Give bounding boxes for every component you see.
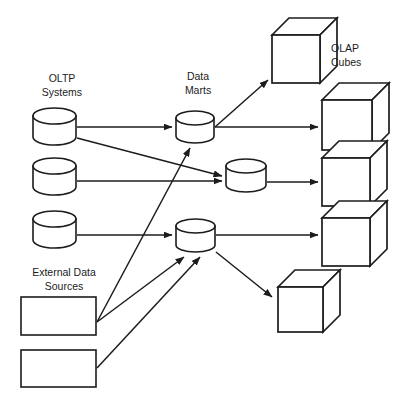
external-sources-group [21,297,96,387]
label-olap-cubes-line2: Cubes [331,56,361,68]
olap-cube-2 [322,83,389,150]
label-external-data-sources: External Data Sources [32,266,96,292]
label-external-data-sources-line1: External Data [32,266,96,278]
arrow-external1-to-mart3 [97,257,184,322]
label-external-data-sources-line2: Sources [45,280,84,292]
data-mart-cylinder-2 [226,159,266,192]
olap-cube-3 [322,141,387,206]
olap-cube-4 [322,201,387,266]
arrow-mart3-to-cube5 [216,252,272,297]
label-data-marts-line2: Marts [185,84,211,96]
arrow-oltp1-to-mart2 [77,138,222,176]
olap-cube-5 [278,270,340,332]
arrow-mart1-to-cube1 [215,80,268,127]
oltp-cylinder-2 [33,158,76,195]
external-source-box-1 [21,297,96,335]
oltp-cylinder-3 [33,211,76,248]
diagram-root: OLTP Systems Data Marts OLAP Cubes Exter… [0,0,395,409]
data-mart-cylinder-1 [176,111,214,143]
label-data-marts-line1: Data [187,70,209,82]
oltp-cylinder-1 [33,108,76,145]
label-oltp-systems-line1: OLTP [49,72,76,84]
label-data-marts: Data Marts [185,70,211,96]
label-oltp-systems-line2: Systems [42,86,82,98]
data-warehouse-architecture-diagram: OLTP Systems Data Marts OLAP Cubes Exter… [0,0,395,409]
arrow-external2-to-mart3 [97,257,200,368]
external-source-box-2 [21,350,96,387]
label-olap-cubes-line1: OLAP [331,42,359,54]
data-mart-cylinder-3 [176,219,215,252]
oltp-systems-group [33,108,76,248]
label-oltp-systems: OLTP Systems [42,72,82,98]
olap-cube-1 [272,18,337,83]
